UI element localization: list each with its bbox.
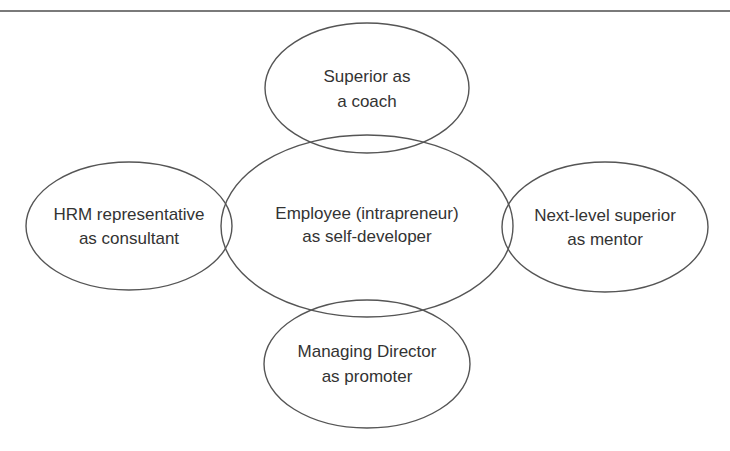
managing-director-label-line2: as promoter: [322, 367, 413, 386]
next-level-label-line1: Next-level superior: [534, 206, 676, 225]
employee-label-line2: as self-developer: [302, 227, 432, 246]
node-employee: Employee (intrapreneur) as self-develope…: [221, 135, 513, 317]
role-diagram: Employee (intrapreneur) as self-develope…: [0, 0, 730, 451]
next-level-label-line2: as mentor: [567, 230, 643, 249]
hrm-label-line2: as consultant: [79, 229, 179, 248]
node-next-level-superior: Next-level superior as mentor: [502, 162, 708, 292]
employee-label-line1: Employee (intrapreneur): [275, 204, 458, 223]
employee-ellipse: [221, 135, 513, 317]
superior-ellipse: [265, 23, 469, 153]
managing-director-ellipse: [264, 300, 470, 428]
node-hrm: HRM representative as consultant: [26, 162, 232, 290]
hrm-ellipse: [26, 162, 232, 290]
superior-label-line1: Superior as: [324, 67, 411, 86]
node-managing-director: Managing Director as promoter: [264, 300, 470, 428]
superior-label-line2: a coach: [337, 92, 397, 111]
next-level-ellipse: [502, 162, 708, 292]
node-superior: Superior as a coach: [265, 23, 469, 153]
hrm-label-line1: HRM representative: [53, 205, 204, 224]
managing-director-label-line1: Managing Director: [298, 342, 437, 361]
